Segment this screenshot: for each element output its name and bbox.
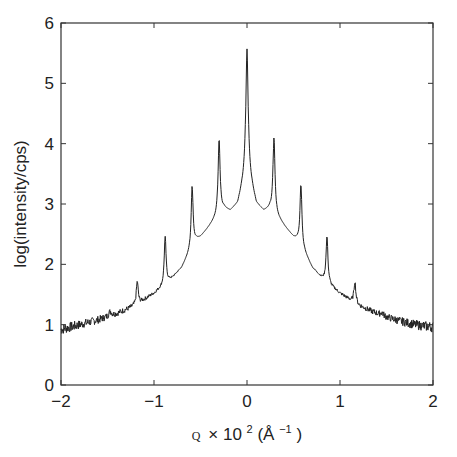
y-tick-label: 6 [45, 14, 54, 33]
tick-labels-group: −2−10120123456 [45, 14, 438, 411]
x-label-unit-open: (Å [257, 425, 275, 444]
x-tick-label: −2 [51, 392, 70, 411]
y-tick-label: 3 [45, 195, 54, 214]
y-tick-label: 2 [45, 255, 54, 274]
x-label-unit-exp: −1 [279, 423, 292, 435]
x-tick-label: 0 [242, 392, 251, 411]
x-label-symbol: Q [192, 429, 201, 443]
plot-frame [61, 23, 433, 385]
y-tick-label: 4 [45, 135, 54, 154]
intensity-trace [61, 49, 433, 334]
x-tick-label: 1 [335, 392, 344, 411]
x-tick-label: −1 [144, 392, 163, 411]
y-tick-label: 0 [45, 376, 54, 395]
chart: −2−10120123456 log(intensity/cps) Q × 10… [0, 0, 457, 457]
x-label-times: × [208, 425, 218, 444]
y-axis-label: log(intensity/cps) [11, 140, 30, 268]
x-label-base: 10 [223, 425, 242, 444]
x-axis-label: Q × 10 2 (Å −1 ) [192, 418, 302, 444]
x-label-exp: 2 [247, 423, 253, 435]
y-tick-label: 5 [45, 74, 54, 93]
y-tick-label: 1 [45, 316, 54, 335]
ticks-group [61, 23, 433, 385]
x-label-unit-close: ) [296, 425, 302, 444]
x-tick-label: 2 [428, 392, 437, 411]
